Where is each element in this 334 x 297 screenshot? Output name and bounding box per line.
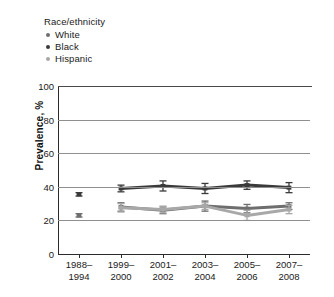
data-point	[77, 192, 82, 196]
plot-area	[58, 86, 310, 254]
x-axis-tick-labels: 1988– 19941999– 20002001– 20022003– 2004…	[58, 259, 310, 291]
chart-figure: Race/ethnicity White Black Hispanic Prev…	[0, 0, 334, 297]
gridline	[58, 86, 312, 87]
y-axis-tick-labels: 020406080100	[18, 86, 54, 254]
legend-item-hispanic: Hispanic	[46, 53, 105, 65]
legend-title: Race/ethnicity	[44, 16, 105, 27]
x-tick-label: 2007– 2008	[263, 259, 315, 283]
legend-marker-white-icon	[46, 33, 50, 37]
x-tick	[205, 254, 206, 258]
legend-label-white: White	[55, 29, 80, 41]
x-tick	[79, 254, 80, 258]
data-point	[245, 213, 250, 217]
legend-label-hispanic: Hispanic	[55, 53, 92, 65]
gridline	[58, 120, 310, 121]
y-tick-label: 80	[43, 114, 54, 125]
y-tick-label: 40	[43, 181, 54, 192]
legend-item-black: Black	[46, 41, 105, 53]
data-point	[119, 206, 124, 210]
data-point	[287, 207, 292, 211]
x-tick	[247, 254, 248, 258]
gridline	[58, 220, 310, 221]
legend-item-white: White	[46, 29, 105, 41]
legend-marker-black-icon	[46, 45, 50, 49]
x-tick	[121, 254, 122, 258]
series-black	[76, 181, 293, 196]
y-tick-label: 60	[43, 148, 54, 159]
y-tick-label: 20	[43, 215, 54, 226]
gridline	[58, 153, 310, 154]
data-point	[203, 204, 208, 208]
chart-legend: Race/ethnicity White Black Hispanic	[44, 16, 105, 65]
gridline	[58, 187, 310, 188]
data-point	[77, 213, 82, 217]
x-tick	[163, 254, 164, 258]
y-tick-label: 100	[38, 81, 54, 92]
legend-marker-hispanic-icon	[46, 57, 50, 61]
data-point	[161, 207, 166, 211]
y-tick-label: 0	[49, 249, 54, 260]
x-tick	[289, 254, 290, 258]
legend-label-black: Black	[55, 41, 79, 53]
data-layer	[58, 86, 310, 254]
